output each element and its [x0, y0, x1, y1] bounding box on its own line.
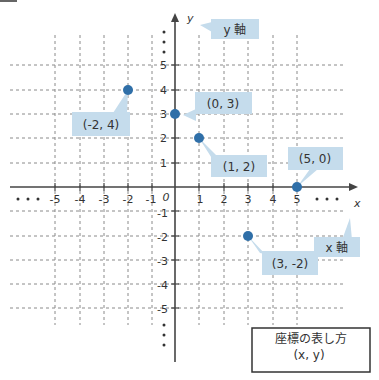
origin-label: 0 — [163, 191, 170, 204]
svg-text:2: 2 — [160, 132, 167, 145]
y-axis-label: y — [186, 12, 194, 25]
svg-text:-5: -5 — [50, 193, 61, 206]
legend-box: 座標の表し方 (x, y) — [252, 328, 370, 372]
svg-text:1: 1 — [160, 157, 167, 170]
svg-text:-4: -4 — [157, 279, 168, 292]
point-marker — [170, 109, 180, 119]
svg-text:-2: -2 — [157, 231, 168, 244]
x-axis-callout: x 軸 — [326, 241, 349, 255]
point-marker — [194, 133, 204, 143]
x-axis-arrow-icon — [349, 183, 358, 191]
svg-text:-2: -2 — [123, 193, 134, 206]
y-axis-callout: y 軸 — [224, 23, 247, 37]
svg-text:-3: -3 — [99, 193, 110, 206]
svg-text:-5: -5 — [157, 303, 168, 316]
svg-text:2: 2 — [221, 193, 228, 206]
point-marker — [243, 231, 253, 241]
svg-text:3: 3 — [160, 108, 167, 121]
svg-text:-3: -3 — [157, 255, 168, 268]
y-axis-arrow-icon — [171, 13, 179, 22]
grid — [10, 35, 345, 325]
point-label: (-2, 4) — [83, 118, 120, 132]
svg-text:5: 5 — [160, 59, 167, 72]
svg-text:5: 5 — [294, 193, 301, 206]
legend-title: 座標の表し方 — [275, 331, 347, 346]
ellipsis-dots — [17, 31, 339, 347]
point-label: (0, 3) — [207, 97, 239, 111]
svg-text:4: 4 — [270, 193, 277, 206]
point-label: (3, -2) — [272, 257, 309, 271]
point-label: (5, 0) — [299, 152, 331, 166]
coordinate-plane: -5 -4 -3 -2 -1 1 2 3 4 5 0 5 4 3 2 1 -1 … — [0, 0, 379, 380]
point-marker — [292, 182, 302, 192]
svg-text:1: 1 — [197, 193, 204, 206]
svg-text:-1: -1 — [157, 207, 168, 220]
point-marker — [123, 85, 133, 95]
point-label: (1, 2) — [223, 160, 255, 174]
svg-text:4: 4 — [160, 84, 167, 97]
svg-text:-4: -4 — [75, 193, 86, 206]
legend-formula: (x, y) — [293, 348, 324, 362]
callouts — [72, 19, 360, 365]
x-axis-label: x — [353, 197, 361, 210]
svg-text:-1: -1 — [146, 193, 157, 206]
svg-text:3: 3 — [245, 193, 252, 206]
